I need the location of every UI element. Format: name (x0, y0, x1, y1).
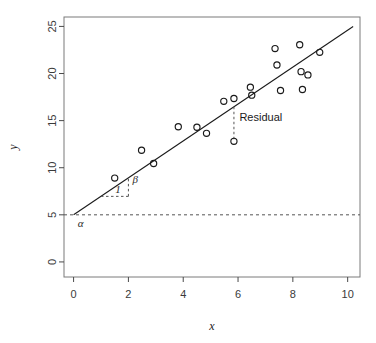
x-tick-label: 2 (125, 288, 131, 300)
x-tick-label: 8 (290, 288, 296, 300)
annotation-beta: β (132, 173, 139, 185)
annotation-run-one: 1 (115, 183, 121, 195)
x-axis-label: x (208, 319, 215, 333)
y-tick-label: 20 (46, 67, 58, 79)
x-tick-label: 6 (235, 288, 241, 300)
y-tick-label: 0 (46, 259, 58, 265)
x-tick-label: 0 (71, 288, 77, 300)
y-tick-label: 15 (46, 114, 58, 126)
y-tick-label: 10 (46, 162, 58, 174)
annotation-residual: Residual (239, 111, 282, 123)
annotation-alpha: α (78, 217, 84, 229)
x-tick-label: 10 (342, 288, 354, 300)
scatter-plot-figure: 0510152025 0246810 α1βResidual x y (0, 0, 376, 343)
y-axis-label: y (6, 144, 20, 151)
x-tick-label: 4 (180, 288, 186, 300)
y-tick-label: 5 (46, 212, 58, 218)
chart-canvas: 0510152025 0246810 α1βResidual x y (0, 0, 376, 343)
y-tick-label: 25 (46, 20, 58, 32)
